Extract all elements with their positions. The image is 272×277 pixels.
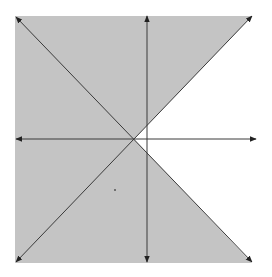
inequality-graph — [0, 0, 272, 277]
dot — [114, 189, 116, 191]
